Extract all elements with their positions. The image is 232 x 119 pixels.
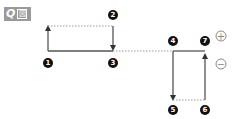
marker-1: 1 xyxy=(43,58,53,68)
marker-5: 5 xyxy=(168,105,178,115)
marker-2: 2 xyxy=(108,10,118,20)
marker-6: 6 xyxy=(200,105,210,115)
marker-4: 4 xyxy=(168,36,178,46)
marker-7: 7 xyxy=(200,36,210,46)
minus-circle-icon: − xyxy=(216,59,227,70)
marker-3: 3 xyxy=(108,58,118,68)
plus-circle-icon: + xyxy=(216,31,227,42)
